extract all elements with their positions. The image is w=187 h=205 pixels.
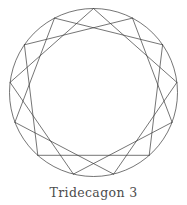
star-edge (149, 45, 162, 156)
star-edge (73, 122, 172, 174)
circumscribed-circle (10, 9, 178, 177)
figure-caption: Tridecagon 3 (0, 185, 187, 200)
star-edge (15, 18, 55, 122)
star-edge (24, 45, 37, 156)
star-polygon-edges (10, 9, 177, 175)
tridecagon-figure: Tridecagon 3 (0, 0, 187, 205)
star-edge (114, 82, 177, 174)
star-edge (10, 82, 73, 174)
star-edge (133, 18, 173, 122)
star-polygon-diagram (0, 0, 187, 187)
star-edge (15, 122, 114, 174)
